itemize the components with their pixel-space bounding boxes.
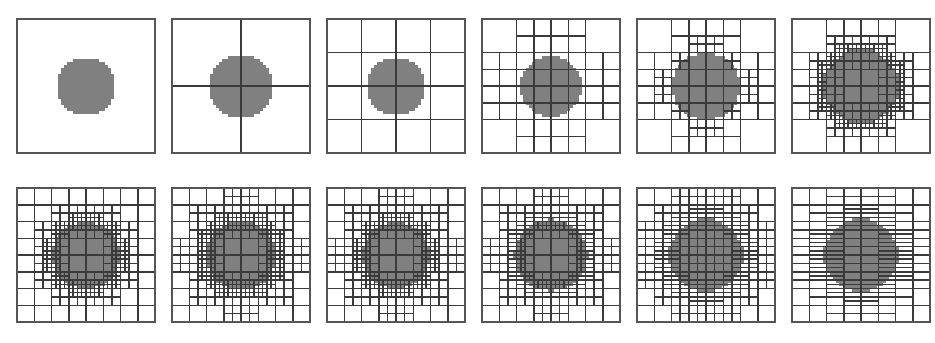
mesh-lines <box>172 188 310 322</box>
mesh-lines <box>637 19 775 153</box>
mesh-lines <box>792 19 930 153</box>
mesh-lines <box>792 188 930 322</box>
mesh-panel-4: level 3 <box>479 16 623 156</box>
mesh-lines <box>17 188 155 322</box>
mesh-panel-11: level 10 <box>634 185 778 325</box>
mesh-lines <box>172 19 310 153</box>
amr-figure: level 0level 1level 2level 3level 4level… <box>0 0 935 343</box>
mesh-panel-1: level 0 <box>14 16 158 156</box>
mesh-lines <box>637 188 775 322</box>
mesh-panel-12: level 11 <box>789 185 933 325</box>
mesh-panel-8: level 7 <box>169 185 313 325</box>
panel-row-top: level 0level 1level 2level 3level 4level… <box>0 16 935 171</box>
panel-row-bottom: level 6level 7level 8level 9level 10leve… <box>0 185 935 340</box>
mesh-lines <box>482 19 620 153</box>
mesh-panel-7: level 6 <box>14 185 158 325</box>
mesh-lines <box>327 188 465 322</box>
circle-region <box>58 59 114 114</box>
mesh-panel-6: level 5 <box>789 16 933 156</box>
mesh-panel-3: level 2 <box>324 16 468 156</box>
mesh-panel-10: level 9 <box>479 185 623 325</box>
mesh-lines <box>482 188 620 322</box>
mesh-panel-2: level 1 <box>169 16 313 156</box>
mesh-panel-5: level 4 <box>634 16 778 156</box>
mesh-panel-9: level 8 <box>324 185 468 325</box>
mesh-lines <box>327 19 465 153</box>
